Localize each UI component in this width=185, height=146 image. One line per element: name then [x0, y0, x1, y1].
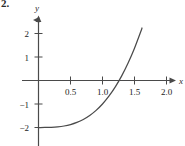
- y-tick-label: −2: [19, 123, 29, 133]
- x-tick-label: 1.0: [97, 87, 109, 97]
- y-axis-arrowhead: [36, 16, 42, 23]
- curve-line: [39, 28, 142, 128]
- x-axis-arrowhead: [170, 78, 177, 84]
- x-tick-label: 2.0: [161, 87, 173, 97]
- y-tick-label: 2: [25, 29, 30, 39]
- x-tick-label: 0.5: [65, 87, 77, 97]
- y-tick-label: 1: [25, 53, 30, 63]
- x-tick-label: 1.5: [129, 87, 141, 97]
- x-axis-label: x: [178, 76, 183, 86]
- figure-container: 2. y x 0.5 1.0 1.5 2.0: [0, 0, 185, 146]
- y-axis-label: y: [34, 3, 39, 13]
- chart-plot: y x 0.5 1.0 1.5 2.0 2 1 −1 −2: [0, 0, 185, 146]
- y-tick-label: −1: [19, 100, 29, 110]
